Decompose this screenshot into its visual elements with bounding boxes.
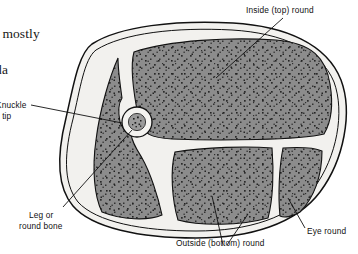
diagram-canvas: ed mostly ada e Inside (top) round Knuck… <box>0 0 358 254</box>
beef-round-cross-section-svg <box>0 0 358 254</box>
region-inside-top-round <box>132 39 331 140</box>
region-outside-bottom-round <box>172 147 273 224</box>
label-outside-bottom-round: Outside (bottom) round <box>176 238 265 249</box>
label-or-tip: or tip <box>0 111 11 122</box>
margin-text-line-2: ada <box>0 62 8 78</box>
label-inside-top-round: Inside (top) round <box>246 5 314 16</box>
label-eye-round: Eye round <box>307 226 346 237</box>
label-leg-or: Leg or <box>29 210 53 221</box>
margin-text-line-1: ed mostly <box>0 26 40 42</box>
label-knuckle: Knuckle <box>0 100 27 111</box>
label-round-bone: round bone <box>19 221 62 232</box>
region-eye-round <box>279 148 322 217</box>
leg-round-bone <box>122 107 152 137</box>
